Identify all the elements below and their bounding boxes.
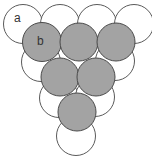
label-b: b <box>37 34 44 48</box>
gray-sphere <box>77 58 115 96</box>
gray-sphere <box>97 23 135 61</box>
gray-sphere <box>60 23 98 61</box>
gray-sphere <box>58 93 96 131</box>
sphere-packing-diagram: a b <box>0 0 152 162</box>
label-a: a <box>14 11 21 25</box>
gray-sphere <box>41 58 79 96</box>
